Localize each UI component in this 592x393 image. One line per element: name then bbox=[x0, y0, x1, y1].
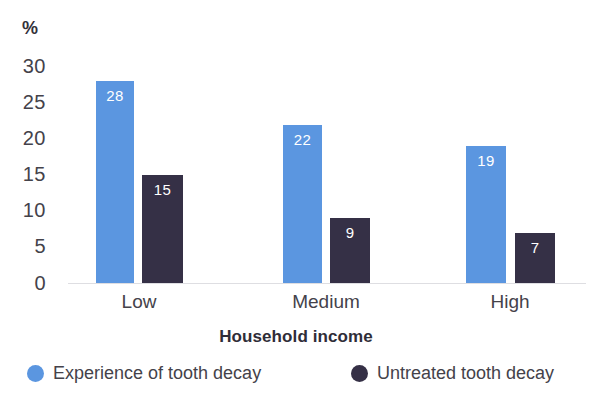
x-axis-label-low: Low bbox=[122, 291, 157, 313]
bar-high-experience[interactable]: 19 bbox=[466, 146, 506, 283]
bar-value-medium-untreated: 9 bbox=[330, 224, 370, 241]
legend-label-untreated: Untreated tooth decay bbox=[377, 363, 554, 384]
bar-medium-experience[interactable]: 22 bbox=[283, 125, 322, 283]
x-axis-title: Household income bbox=[0, 327, 592, 347]
bar-medium-untreated[interactable]: 9 bbox=[330, 218, 370, 283]
chart-legend: Experience of tooth decay Untreated toot… bbox=[0, 360, 592, 393]
bar-value-medium-experience: 22 bbox=[283, 131, 322, 148]
plot-area: 28 15 22 9 19 7 bbox=[68, 40, 586, 283]
bar-value-low-experience: 28 bbox=[96, 87, 134, 104]
legend-item-experience-of-tooth-decay[interactable]: Experience of tooth decay bbox=[27, 360, 261, 386]
x-axis-label-medium: Medium bbox=[292, 291, 360, 313]
bar-value-high-untreated: 7 bbox=[515, 239, 555, 256]
legend-swatch-icon-untreated bbox=[351, 365, 368, 382]
bar-low-experience[interactable]: 28 bbox=[96, 81, 134, 283]
bar-chart: % 30 25 20 15 10 5 0 28 15 22 9 19 7 bbox=[0, 0, 592, 393]
x-axis-baseline bbox=[68, 283, 586, 284]
legend-label-experience: Experience of tooth decay bbox=[53, 363, 261, 384]
bar-low-untreated[interactable]: 15 bbox=[142, 175, 183, 283]
y-axis-tick-0: 0 bbox=[34, 272, 46, 295]
bar-high-untreated[interactable]: 7 bbox=[515, 233, 555, 283]
y-axis-tick-30: 30 bbox=[23, 55, 46, 78]
x-axis-label-high: High bbox=[490, 291, 529, 313]
y-axis-tick-25: 25 bbox=[23, 91, 46, 114]
bar-value-low-untreated: 15 bbox=[142, 181, 183, 198]
x-axis-labels: Low Medium High bbox=[68, 291, 586, 321]
legend-item-untreated-tooth-decay[interactable]: Untreated tooth decay bbox=[351, 360, 554, 386]
y-axis-tick-20: 20 bbox=[23, 127, 46, 150]
legend-swatch-icon-experience bbox=[27, 365, 44, 382]
bar-value-high-experience: 19 bbox=[466, 152, 506, 169]
y-axis-tick-15: 15 bbox=[23, 163, 46, 186]
y-axis-tick-10: 10 bbox=[23, 199, 46, 222]
y-axis-tick-5: 5 bbox=[34, 235, 46, 258]
